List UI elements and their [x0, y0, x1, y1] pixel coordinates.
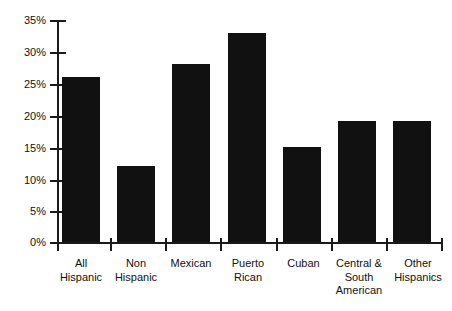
- category-label-line: Hispanic: [55, 271, 107, 285]
- x-tick-4: [276, 238, 278, 251]
- x-tick-1: [110, 238, 112, 251]
- category-label-line: Non: [110, 257, 162, 271]
- y-tick-30: [50, 52, 66, 54]
- y-tick-label-10: 10%: [8, 175, 46, 186]
- category-label-line: Hispanics: [387, 271, 449, 285]
- bar-all-hispanic: [62, 77, 100, 242]
- bar-central-south-american: [338, 121, 376, 242]
- y-tick-label-30: 30%: [8, 47, 46, 58]
- bar-puerto-rican: [228, 33, 266, 242]
- y-tick-label-35: 35%: [8, 15, 46, 26]
- category-label-cuban: Cuban: [276, 257, 331, 271]
- category-label-puerto-rican: PuertoRican: [220, 257, 276, 284]
- category-label-line: Rican: [220, 271, 276, 285]
- bar-non-hispanic: [117, 166, 155, 242]
- category-label-line: Central &: [329, 257, 389, 271]
- category-label-line: Mexican: [162, 257, 220, 271]
- x-tick-3: [220, 238, 222, 251]
- category-label-line: American: [329, 284, 389, 298]
- bar-mexican: [172, 64, 210, 242]
- bar-cuban: [283, 147, 321, 242]
- y-tick-label-25: 25%: [8, 79, 46, 90]
- x-tick-end: [441, 238, 443, 251]
- category-label-other-hispanics: OtherHispanics: [387, 257, 449, 284]
- y-tick-label-15: 15%: [8, 143, 46, 154]
- category-label-central-south-american: Central &SouthAmerican: [329, 257, 389, 298]
- category-label-all-hispanic: AllHispanic: [55, 257, 107, 284]
- x-tick-6: [386, 238, 388, 251]
- category-label-line: Cuban: [276, 257, 331, 271]
- bar-chart: 35% 30% 25% 20% 15% 10% 5% 0%: [0, 0, 452, 311]
- category-label-line: Hispanic: [110, 271, 162, 285]
- y-tick-35: [50, 20, 66, 22]
- x-tick-2: [165, 238, 167, 251]
- category-label-line: All: [55, 257, 107, 271]
- category-label-line: Puerto: [220, 257, 276, 271]
- x-tick-5: [331, 238, 333, 251]
- y-tick-label-5: 5%: [8, 206, 46, 217]
- x-tick-origin: [57, 238, 59, 251]
- y-tick-label-20: 20%: [8, 111, 46, 122]
- y-tick-label-0: 0%: [8, 237, 46, 248]
- category-label-non-hispanic: NonHispanic: [110, 257, 162, 284]
- category-label-mexican: Mexican: [162, 257, 220, 271]
- bar-other-hispanics: [393, 121, 431, 242]
- category-label-line: Other: [387, 257, 449, 271]
- category-label-line: South: [329, 271, 389, 285]
